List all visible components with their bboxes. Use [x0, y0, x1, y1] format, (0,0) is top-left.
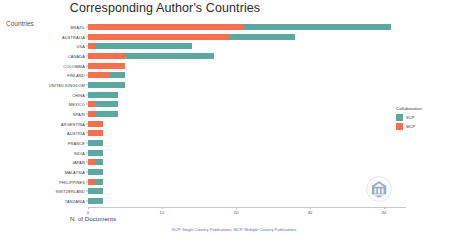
category-label: PHILIPPINES: [59, 179, 85, 184]
chart-screenshot: Corresponding Author's Countries Countri…: [0, 0, 468, 237]
bar-row: MALAYSIA: [88, 167, 406, 177]
stacked-bar[interactable]: [88, 179, 103, 185]
bar-segment-mcp[interactable]: [88, 63, 125, 69]
category-label: AUSTRALIA: [62, 34, 85, 39]
bar-segment-scp[interactable]: [95, 179, 102, 185]
bar-segment-mcp[interactable]: [88, 101, 95, 107]
bar-segment-mcp[interactable]: [88, 121, 103, 127]
x-tick-mark: [162, 207, 163, 209]
bar-segment-scp[interactable]: [88, 198, 103, 204]
stacked-bar[interactable]: [88, 34, 295, 40]
stacked-bar[interactable]: [88, 121, 103, 127]
x-tick-mark: [88, 207, 89, 209]
category-label: BRAZIL: [70, 24, 85, 29]
stacked-bar[interactable]: [88, 169, 103, 175]
legend-item-mcp[interactable]: MCP: [396, 123, 464, 130]
bar-row: UNITED KINGDOM: [88, 80, 406, 90]
stacked-bar[interactable]: [88, 140, 103, 146]
category-label: FINLAND: [67, 73, 85, 78]
category-label: CANADA: [68, 53, 85, 58]
stacked-bar[interactable]: [88, 101, 118, 107]
category-label: INDIA: [74, 150, 85, 155]
stacked-bar[interactable]: [88, 130, 103, 136]
legend-label: MCP: [406, 124, 415, 129]
bar-row: AUSTRIA: [88, 128, 406, 138]
x-tick-label: 20: [234, 210, 239, 215]
bar-row: TANZANIA: [88, 196, 406, 206]
stacked-bar[interactable]: [88, 92, 118, 98]
stacked-bar[interactable]: [88, 111, 118, 117]
bar-segment-mcp[interactable]: [88, 53, 125, 59]
bibliometrix-logo-icon: [366, 176, 392, 202]
stacked-bar[interactable]: [88, 159, 103, 165]
bar-segment-scp[interactable]: [110, 72, 125, 78]
bar-segment-scp[interactable]: [88, 92, 118, 98]
legend-title: Collaboration: [396, 106, 464, 111]
bar-segment-mcp[interactable]: [88, 24, 243, 30]
x-tick-mark: [236, 207, 237, 209]
category-label: AUSTRIA: [67, 131, 85, 136]
bar-segment-mcp[interactable]: [88, 34, 229, 40]
bar-segment-scp[interactable]: [95, 159, 102, 165]
bar-segment-scp[interactable]: [88, 150, 103, 156]
stacked-bar[interactable]: [88, 198, 103, 204]
x-tick-mark: [310, 207, 311, 209]
legend-swatch-icon: [396, 123, 403, 130]
bar-row: MEXICO: [88, 99, 406, 109]
bar-segment-scp[interactable]: [95, 43, 191, 49]
bar-row: SPAIN: [88, 109, 406, 119]
stacked-bar[interactable]: [88, 53, 214, 59]
stacked-bar[interactable]: [88, 24, 391, 30]
y-axis-title: Countries: [6, 20, 34, 27]
category-label: USA: [77, 44, 85, 49]
bar-row: CHINA: [88, 90, 406, 100]
category-label: FRANCE: [68, 140, 85, 145]
bar-row: PHILIPPINES: [88, 177, 406, 187]
category-label: COLOMBIA: [63, 63, 85, 68]
bar-segment-scp[interactable]: [88, 82, 125, 88]
bar-segment-scp[interactable]: [125, 53, 214, 59]
category-label: CHINA: [72, 92, 85, 97]
bar-row: USA: [88, 41, 406, 51]
stacked-bar[interactable]: [88, 82, 125, 88]
bar-row: JAPAN: [88, 157, 406, 167]
bar-segment-mcp[interactable]: [88, 43, 95, 49]
stacked-bar[interactable]: [88, 188, 103, 194]
bar-segment-mcp[interactable]: [88, 111, 95, 117]
bar-segment-scp[interactable]: [95, 101, 117, 107]
stacked-bar[interactable]: [88, 72, 125, 78]
bar-row: COLOMBIA: [88, 61, 406, 71]
x-axis-title: N. of Documents: [70, 215, 116, 222]
bar-segment-scp[interactable]: [243, 24, 391, 30]
legend-swatch-icon: [396, 114, 403, 121]
bar-segment-mcp[interactable]: [88, 130, 103, 136]
stacked-bar[interactable]: [88, 43, 192, 49]
bar-row: BRAZIL: [88, 22, 406, 32]
bar-row: ARGENTINA: [88, 119, 406, 129]
category-label: MEXICO: [69, 102, 85, 107]
x-tick-label: 40: [381, 210, 386, 215]
bar-segment-scp[interactable]: [88, 188, 103, 194]
legend: Collaboration SCPMCP: [396, 106, 464, 131]
bar-row: SWITZERLAND: [88, 186, 406, 196]
stacked-bar[interactable]: [88, 63, 125, 69]
bar-segment-scp[interactable]: [95, 111, 117, 117]
category-label: ARGENTINA: [61, 121, 85, 126]
stacked-bar[interactable]: [88, 150, 103, 156]
bar-row: FRANCE: [88, 138, 406, 148]
x-tick-label: 0: [87, 210, 89, 215]
bar-segment-mcp[interactable]: [88, 179, 95, 185]
bar-segment-scp[interactable]: [88, 169, 103, 175]
bar-segment-mcp[interactable]: [88, 159, 95, 165]
bar-segment-scp[interactable]: [88, 140, 103, 146]
bar-segment-mcp[interactable]: [88, 72, 110, 78]
category-label: SPAIN: [73, 111, 85, 116]
category-label: JAPAN: [72, 160, 85, 165]
x-tick-label: 30: [308, 210, 313, 215]
bar-segment-scp[interactable]: [229, 34, 296, 40]
legend-item-scp[interactable]: SCP: [396, 114, 464, 121]
category-label: SWITZERLAND: [55, 189, 85, 194]
chart-caption: SCP: Single Country Publications, MCP: M…: [0, 227, 468, 232]
category-label: TANZANIA: [65, 198, 85, 203]
bar-row: AUSTRALIA: [88, 32, 406, 42]
